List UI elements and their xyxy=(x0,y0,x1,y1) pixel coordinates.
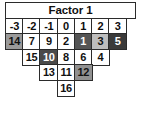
pyramid-table-figure: Factor 1 -3-2-10123 14792135151086413111… xyxy=(0,0,142,118)
column-header-cell: -3 xyxy=(5,18,24,35)
column-header-cell: 2 xyxy=(91,18,110,35)
table-cell: 12 xyxy=(74,64,93,81)
table-cell: 4 xyxy=(91,49,110,66)
row-indent-spacer xyxy=(5,80,24,97)
column-header-cell: 3 xyxy=(108,18,127,35)
row-indent-spacer xyxy=(5,64,24,81)
column-header-cell: -1 xyxy=(39,18,58,35)
table-row: 131112 xyxy=(5,64,136,81)
row-indent-spacer xyxy=(22,64,41,81)
column-header-cell: 0 xyxy=(57,18,76,35)
table-cell: 10 xyxy=(39,49,58,66)
table-cell: 16 xyxy=(57,80,76,97)
table-title: Factor 1 xyxy=(5,2,136,19)
table-cell: 8 xyxy=(57,49,76,66)
table-cell: 1 xyxy=(74,33,93,50)
row-indent-spacer xyxy=(39,80,58,97)
table-cell: 13 xyxy=(39,64,58,81)
row-indent-spacer xyxy=(22,80,41,97)
table-row: 16 xyxy=(5,80,136,97)
table-cell: 2 xyxy=(57,33,76,50)
column-header-cell: 1 xyxy=(74,18,93,35)
table-cell: 3 xyxy=(91,33,110,50)
table-row: 14792135 xyxy=(5,33,136,50)
table-row: 1510864 xyxy=(5,49,136,66)
table-cell: 11 xyxy=(57,64,76,81)
table-cell: 9 xyxy=(39,33,58,50)
table-cell: 15 xyxy=(22,49,41,66)
table-body: 14792135151086413111216 xyxy=(5,33,136,97)
column-header-row: -3-2-10123 xyxy=(5,18,136,35)
factor-table: Factor 1 -3-2-10123 14792135151086413111… xyxy=(5,2,136,97)
column-header-cell: -2 xyxy=(22,18,41,35)
table-cell: 6 xyxy=(74,49,93,66)
table-cell: 14 xyxy=(5,33,24,50)
table-title-row: Factor 1 xyxy=(5,2,136,19)
row-indent-spacer xyxy=(5,49,24,66)
table-cell: 7 xyxy=(22,33,41,50)
table-cell: 5 xyxy=(108,33,127,50)
